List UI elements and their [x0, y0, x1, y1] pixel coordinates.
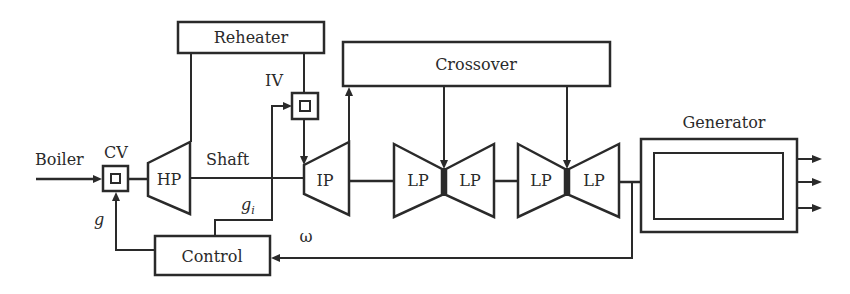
- gi-label: gi: [241, 195, 255, 217]
- arrowhead-icon: [93, 175, 102, 183]
- crossover-block: Crossover: [343, 42, 610, 86]
- cv-valve: CV: [103, 143, 128, 191]
- control-block: Control: [155, 236, 270, 275]
- arrowhead-icon: [112, 192, 120, 201]
- ip-label: IP: [316, 171, 333, 190]
- lp2-left-label: LP: [530, 171, 552, 190]
- arrowhead-icon: [812, 204, 822, 212]
- reheater-label: Reheater: [214, 28, 289, 47]
- lp1-right-label: LP: [459, 171, 481, 190]
- generator-block: Generator: [641, 113, 797, 232]
- arrowhead-icon: [812, 155, 822, 163]
- shaft-label: Shaft: [206, 150, 250, 169]
- omega-label: ω: [299, 227, 312, 246]
- arrowhead-icon: [283, 102, 292, 110]
- cv-label: CV: [104, 143, 128, 162]
- boiler-label: Boiler: [35, 150, 84, 169]
- hp-turbine: HP: [148, 142, 190, 214]
- arrowhead-icon: [345, 87, 353, 96]
- iv-label: IV: [265, 71, 283, 90]
- arrowhead-icon: [271, 254, 280, 262]
- lp-turbine-pair-2: LP LP: [518, 144, 619, 217]
- lp2-right-label: LP: [583, 171, 605, 190]
- control-to-cv-line: [116, 200, 155, 250]
- crossover-label: Crossover: [435, 55, 517, 74]
- hp-label: HP: [157, 170, 182, 189]
- ip-turbine: IP: [304, 142, 349, 215]
- iv-valve: IV: [265, 71, 318, 119]
- turbine-diagram: Reheater Crossover Boiler CV HP Shaft IV…: [0, 0, 850, 294]
- generator-label: Generator: [683, 113, 766, 132]
- lp1-left-label: LP: [407, 171, 429, 190]
- control-label: Control: [181, 247, 242, 266]
- generator-outputs: [797, 155, 822, 212]
- control-to-iv-line: [215, 106, 284, 236]
- g-label: g: [94, 210, 104, 229]
- arrowhead-icon: [812, 178, 822, 186]
- reheater-block: Reheater: [178, 22, 324, 53]
